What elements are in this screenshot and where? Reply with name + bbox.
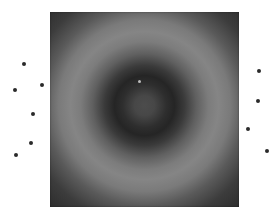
marker-dot-left-5 [29, 141, 33, 145]
bright-center-spot [138, 80, 141, 83]
marker-dot-right-1 [257, 69, 261, 73]
marker-dot-left-1 [22, 62, 26, 66]
ring-pattern-image [50, 12, 239, 207]
marker-dot-left-6 [14, 153, 18, 157]
marker-dot-right-3 [246, 127, 250, 131]
marker-dot-right-4 [265, 149, 269, 153]
marker-dot-right-2 [256, 99, 260, 103]
marker-dot-left-4 [31, 112, 35, 116]
marker-dot-left-3 [13, 88, 17, 92]
marker-dot-left-2 [40, 83, 44, 87]
